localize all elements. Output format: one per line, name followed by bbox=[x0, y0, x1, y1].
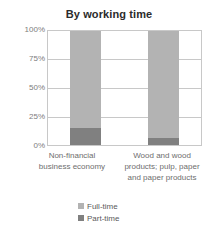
x-axis-category-label-0: Non-financial business economy bbox=[26, 150, 118, 172]
y-axis: 100% 75% 50% 25% 0% bbox=[3, 30, 45, 146]
bar-column-wood-and-wood-products[interactable] bbox=[148, 31, 179, 145]
y-axis-tick-50: 50% bbox=[5, 84, 45, 92]
legend-swatch-icon bbox=[78, 215, 84, 221]
chart-container: By working time 100% 75% 50% 25% 0% Non-… bbox=[0, 0, 218, 243]
x-axis-category-line: business economy bbox=[26, 161, 118, 172]
legend-label: Full-time bbox=[87, 202, 118, 211]
x-axis-category-label-1: Wood and wood products; pulp, paper and … bbox=[110, 150, 214, 183]
bar-segment-part-time bbox=[148, 138, 179, 145]
bar-segment-full-time bbox=[148, 31, 179, 138]
y-axis-tick-0: 0% bbox=[5, 142, 45, 150]
legend-swatch-icon bbox=[78, 203, 84, 209]
legend-item-part-time[interactable]: Part-time bbox=[0, 212, 218, 224]
x-axis-category-line: products; pulp, paper bbox=[110, 161, 214, 172]
chart-legend: Full-time Part-time bbox=[0, 200, 218, 224]
bar-column-non-financial-business-economy[interactable] bbox=[70, 31, 101, 145]
x-axis: Non-financial business economy Wood and … bbox=[0, 150, 218, 196]
bar-segment-part-time bbox=[70, 128, 101, 145]
y-axis-tick-75: 75% bbox=[5, 55, 45, 63]
chart-title: By working time bbox=[0, 8, 218, 20]
bar-segment-full-time bbox=[70, 31, 101, 128]
x-axis-category-line: Non-financial bbox=[26, 150, 118, 161]
legend-label: Part-time bbox=[87, 214, 119, 223]
plot-area bbox=[47, 30, 202, 146]
y-axis-tick-25: 25% bbox=[5, 113, 45, 121]
legend-item-full-time[interactable]: Full-time bbox=[0, 200, 218, 212]
x-axis-category-line: Wood and wood bbox=[110, 150, 214, 161]
x-axis-category-line: and paper products bbox=[110, 172, 214, 183]
y-axis-tick-100: 100% bbox=[5, 26, 45, 34]
